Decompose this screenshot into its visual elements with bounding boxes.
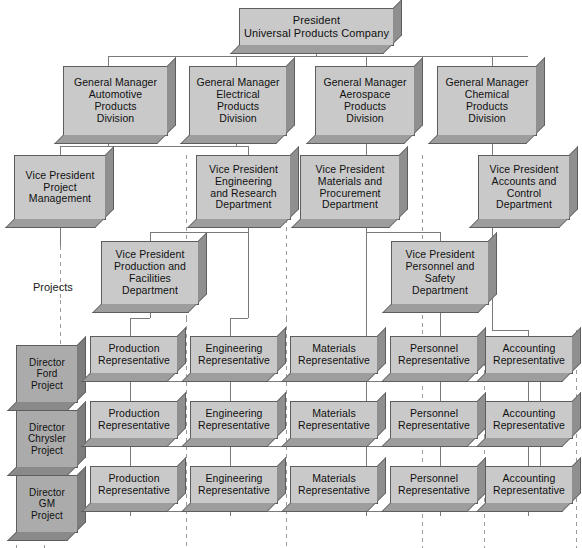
rep-line1: Materials: [312, 472, 356, 484]
rep-line2: Representative: [493, 419, 565, 431]
rep-line2: Representative: [98, 419, 170, 431]
vp-line1: Vice President: [209, 163, 278, 175]
node-director-chrysler[interactable]: Director Chrysler Project: [16, 410, 78, 468]
president-line2: Universal Products Company: [244, 27, 389, 39]
node-vp-accounts-control[interactable]: Vice President Accounts and Control Depa…: [478, 155, 570, 220]
rep-line1: Production: [108, 472, 159, 484]
gm-line3: Products: [94, 100, 136, 112]
node-rep-accounting-2[interactable]: Accounting Representative: [485, 401, 573, 439]
vp-line2: Engineering: [215, 175, 272, 187]
rep-line1: Personnel: [410, 342, 458, 354]
node-gm-electrical[interactable]: General Manager Electrical Products Divi…: [189, 66, 287, 136]
rep-line2: Representative: [198, 419, 270, 431]
rep-line1: Engineering: [205, 472, 262, 484]
vp-line4: Department: [322, 198, 378, 210]
rep-line1: Personnel: [410, 472, 458, 484]
vp-line3: Management: [29, 192, 91, 204]
vp-line3: Control: [507, 187, 542, 199]
gm-line4: Division: [468, 112, 506, 124]
node-rep-production-3[interactable]: Production Representative: [90, 466, 178, 504]
rep-line2: Representative: [198, 484, 270, 496]
vp-line4: Department: [216, 198, 272, 210]
node-vp-project-management[interactable]: Vice President Project Management: [14, 155, 106, 220]
vp-line3: Facilities: [129, 272, 171, 284]
vp-line1: Vice President: [116, 248, 185, 260]
vp-line2: Personnel and: [405, 260, 474, 272]
director-line3: Project: [31, 380, 63, 391]
rep-line1: Production: [108, 407, 159, 419]
rep-line2: Representative: [98, 354, 170, 366]
rep-line1: Accounting: [503, 342, 556, 354]
vp-line1: Vice President: [26, 169, 95, 181]
node-director-ford[interactable]: Director Ford Project: [16, 345, 78, 403]
org-chart: President Universal Products Company Gen…: [0, 0, 582, 548]
node-vp-personnel-safety[interactable]: Vice President Personnel and Safety Depa…: [391, 241, 489, 305]
vp-line1: Vice President: [316, 163, 385, 175]
rep-line2: Representative: [298, 354, 370, 366]
rep-line2: Representative: [298, 419, 370, 431]
gm-line4: Division: [219, 112, 257, 124]
node-rep-materials-3[interactable]: Materials Representative: [290, 466, 378, 504]
node-rep-production-2[interactable]: Production Representative: [90, 401, 178, 439]
vp-line1: Vice President: [490, 163, 559, 175]
gm-line3: Products: [466, 100, 508, 112]
gm-line1: General Manager: [74, 76, 157, 88]
gm-line1: General Manager: [445, 76, 528, 88]
vp-line3: Procurement: [319, 187, 380, 199]
rep-line2: Representative: [398, 484, 470, 496]
vp-line2: Production and: [114, 260, 186, 272]
gm-line4: Division: [346, 112, 384, 124]
rep-line1: Production: [108, 342, 159, 354]
rep-line2: Representative: [493, 484, 565, 496]
rep-line2: Representative: [98, 484, 170, 496]
rep-line1: Materials: [312, 342, 356, 354]
node-gm-chemical[interactable]: General Manager Chemical Products Divisi…: [437, 66, 537, 136]
director-line1: Director: [29, 422, 65, 433]
gm-line3: Products: [344, 100, 386, 112]
vp-line4: Department: [496, 198, 552, 210]
node-president[interactable]: President Universal Products Company: [239, 8, 394, 46]
rep-line1: Materials: [312, 407, 356, 419]
node-vp-production-facilities[interactable]: Vice President Production and Facilities…: [101, 241, 199, 305]
node-rep-materials-1[interactable]: Materials Representative: [290, 336, 378, 374]
projects-label: Projects: [33, 281, 73, 293]
rep-line2: Representative: [493, 354, 565, 366]
director-line2: GM: [39, 498, 55, 509]
vp-line4: Department: [412, 284, 468, 296]
vp-line2: Materials and: [318, 175, 382, 187]
node-rep-production-1[interactable]: Production Representative: [90, 336, 178, 374]
node-director-gm[interactable]: Director GM Project: [16, 475, 78, 533]
rep-line1: Personnel: [410, 407, 458, 419]
node-vp-materials-procurement[interactable]: Vice President Materials and Procurement…: [300, 155, 400, 220]
gm-line1: General Manager: [196, 76, 279, 88]
node-rep-personnel-2[interactable]: Personnel Representative: [390, 401, 478, 439]
node-rep-engineering-3[interactable]: Engineering Representative: [190, 466, 278, 504]
director-line3: Project: [31, 445, 63, 456]
node-rep-materials-2[interactable]: Materials Representative: [290, 401, 378, 439]
director-line1: Director: [29, 357, 65, 368]
gm-line2: Electrical: [216, 88, 260, 100]
node-gm-aerospace[interactable]: General Manager Aerospace Products Divis…: [315, 66, 415, 136]
rep-line1: Accounting: [503, 407, 556, 419]
vp-line2: Project: [43, 181, 76, 193]
rep-line1: Accounting: [503, 472, 556, 484]
rep-line2: Representative: [398, 354, 470, 366]
node-rep-personnel-1[interactable]: Personnel Representative: [390, 336, 478, 374]
vp-line3: Safety: [425, 272, 455, 284]
rep-line2: Representative: [298, 484, 370, 496]
vp-line4: Department: [122, 284, 178, 296]
rep-line2: Representative: [398, 419, 470, 431]
gm-line2: Automotive: [89, 88, 143, 100]
director-line2: Chrysler: [28, 433, 66, 444]
node-vp-engineering-research[interactable]: Vice President Engineering and Research …: [196, 155, 291, 220]
node-rep-engineering-2[interactable]: Engineering Representative: [190, 401, 278, 439]
node-rep-accounting-3[interactable]: Accounting Representative: [485, 466, 573, 504]
gm-line4: Division: [97, 112, 135, 124]
node-rep-engineering-1[interactable]: Engineering Representative: [190, 336, 278, 374]
rep-line2: Representative: [198, 354, 270, 366]
gm-line2: Aerospace: [339, 88, 390, 100]
node-gm-automotive[interactable]: General Manager Automotive Products Divi…: [63, 66, 168, 136]
node-rep-accounting-1[interactable]: Accounting Representative: [485, 336, 573, 374]
gm-line1: General Manager: [323, 76, 406, 88]
node-rep-personnel-3[interactable]: Personnel Representative: [390, 466, 478, 504]
